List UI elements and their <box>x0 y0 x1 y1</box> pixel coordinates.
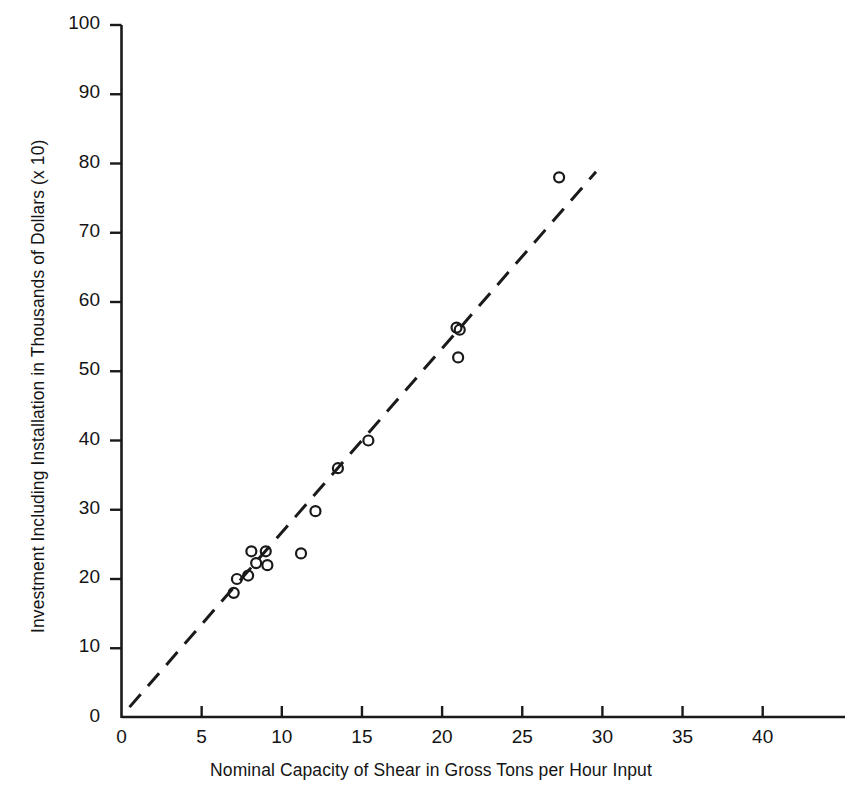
x-tick-label-20: 20 <box>402 726 482 748</box>
x-tick-label-30: 30 <box>562 726 642 748</box>
y-tick-label-0: 0 <box>0 705 100 727</box>
x-tick-label-35: 35 <box>643 726 723 748</box>
y-tick-label-70: 70 <box>0 220 100 242</box>
y-tick-label-40: 40 <box>0 428 100 450</box>
y-tick-label-80: 80 <box>0 151 100 173</box>
data-point <box>251 558 261 568</box>
axis-lines <box>122 25 846 718</box>
data-point <box>310 506 320 516</box>
y-tick-label-30: 30 <box>0 497 100 519</box>
data-point <box>246 546 256 556</box>
y-tick-label-50: 50 <box>0 358 100 380</box>
y-tick-label-10: 10 <box>0 635 100 657</box>
data-point <box>262 560 272 570</box>
data-point <box>554 172 564 182</box>
y-tick-label-90: 90 <box>0 81 100 103</box>
plot-canvas <box>0 0 862 799</box>
scatter-plot-figure: Investment Including Installation in Tho… <box>0 0 862 799</box>
y-tick-label-100: 100 <box>0 12 100 34</box>
y-axis-tick-marks <box>110 25 122 648</box>
x-tick-label-25: 25 <box>482 726 562 748</box>
x-tick-label-40: 40 <box>723 726 803 748</box>
data-point <box>453 352 463 362</box>
y-tick-label-20: 20 <box>0 566 100 588</box>
x-tick-label-10: 10 <box>242 726 322 748</box>
x-axis-title: Nominal Capacity of Shear in Gross Tons … <box>0 760 862 781</box>
x-tick-label-0: 0 <box>82 726 162 748</box>
y-axis-title: Investment Including Installation in Tho… <box>28 140 49 633</box>
x-tick-label-5: 5 <box>162 726 242 748</box>
x-tick-label-15: 15 <box>322 726 402 748</box>
data-point <box>296 548 306 558</box>
data-point <box>363 436 373 446</box>
y-tick-label-60: 60 <box>0 289 100 311</box>
